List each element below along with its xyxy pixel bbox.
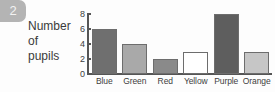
bar-purple	[214, 14, 239, 74]
x-tick-label-purple: Purple	[211, 76, 242, 87]
bar-orange	[244, 52, 269, 75]
y-tick-label: 8	[80, 10, 85, 19]
bar-red	[153, 59, 178, 74]
y-axis-title-line-1: Number	[28, 19, 80, 34]
x-tick-label-blue: Blue	[89, 76, 120, 87]
y-tick-label: 2	[80, 55, 85, 64]
y-axis-title-line-3: pupils	[28, 49, 80, 64]
bar-series	[89, 14, 272, 74]
y-tick-label: 0	[80, 70, 85, 79]
y-axis-title-line-2: of	[28, 34, 80, 49]
y-axis-tick-labels: 02468	[74, 14, 85, 74]
bar-chart: 02468 BlueGreenRedYellowPurpleOrange	[74, 14, 272, 76]
bar-yellow	[183, 52, 208, 75]
y-tick-label: 4	[80, 40, 85, 49]
bar-slot	[120, 14, 151, 74]
y-tick-mark	[87, 43, 91, 45]
x-tick-label-green: Green	[120, 76, 151, 87]
bar-slot	[150, 14, 181, 74]
x-tick-label-yellow: Yellow	[181, 76, 212, 87]
bar-slot	[89, 14, 120, 74]
bar-slot	[242, 14, 273, 74]
x-tick-label-orange: Orange	[242, 76, 273, 87]
y-tick-label: 6	[80, 25, 85, 34]
bar-slot	[211, 14, 242, 74]
bar-blue	[92, 29, 117, 74]
y-axis-title: Number of pupils	[28, 19, 80, 64]
bar-green	[122, 44, 147, 74]
y-tick-mark	[87, 28, 91, 30]
x-axis-tick-labels: BlueGreenRedYellowPurpleOrange	[89, 76, 272, 87]
y-tick-mark	[87, 13, 91, 15]
y-tick-mark	[87, 58, 91, 60]
x-tick-label-red: Red	[150, 76, 181, 87]
question-number-badge: 2	[0, 0, 26, 22]
bar-slot	[181, 14, 212, 74]
